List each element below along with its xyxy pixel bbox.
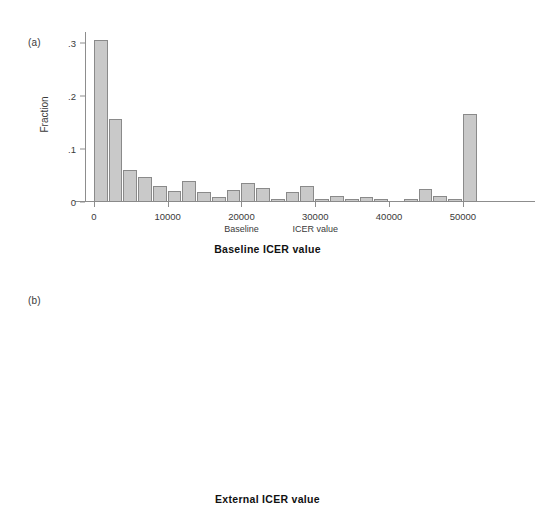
histogram-bar xyxy=(94,40,108,202)
panel-b-caption: External ICER value xyxy=(0,493,535,505)
histogram-bar xyxy=(271,199,285,202)
panel-a: (a) Fraction 0.1.2.301000020000300004000… xyxy=(0,0,535,268)
histogram-bar xyxy=(404,199,418,202)
histogram-bar xyxy=(123,170,137,202)
histogram-bar xyxy=(197,192,211,202)
panel-b: (b) Fraction 0.1.2.301000020000300004000… xyxy=(0,268,535,530)
y-tick-label: .2 xyxy=(39,90,85,101)
histogram-bar xyxy=(419,189,433,202)
y-tick-label: .3 xyxy=(39,37,85,48)
histogram-bar xyxy=(153,186,167,202)
x-axis-annotation: ICER value xyxy=(292,224,338,234)
y-axis-line-a xyxy=(85,32,86,202)
y-tick-mark xyxy=(80,202,85,203)
panel-b-letter: (b) xyxy=(28,295,41,306)
histogram-bar xyxy=(315,199,329,202)
x-tick-label: 30000 xyxy=(302,211,328,222)
histogram-bar xyxy=(360,197,374,202)
histogram-bar xyxy=(345,199,359,202)
y-tick-label: 0 xyxy=(39,197,85,208)
histogram-bar xyxy=(256,188,270,202)
x-tick-mark xyxy=(94,202,95,207)
y-tick-mark xyxy=(80,148,85,149)
histogram-bar xyxy=(374,199,388,202)
x-tick-mark xyxy=(463,202,464,207)
histogram-bar xyxy=(138,177,152,203)
histogram-bar xyxy=(286,192,300,202)
histogram-bar xyxy=(182,181,196,202)
histogram-bar xyxy=(241,183,255,202)
x-tick-label: 40000 xyxy=(376,211,402,222)
x-axis-annotation: Baseline xyxy=(224,224,259,234)
x-tick-label: 20000 xyxy=(228,211,254,222)
histogram-bar xyxy=(109,119,123,202)
histogram-bar xyxy=(227,190,241,202)
panel-a-caption: Baseline ICER value xyxy=(0,243,535,255)
x-tick-mark xyxy=(315,202,316,207)
y-tick-mark xyxy=(80,95,85,96)
x-tick-label: 10000 xyxy=(154,211,180,222)
histogram-bar xyxy=(168,191,182,202)
histogram-bar xyxy=(212,197,226,202)
histogram-bar xyxy=(448,199,462,202)
plot-area-a: Fraction 0.1.2.3010000200003000040000500… xyxy=(85,32,485,202)
x-tick-label: 0 xyxy=(91,211,96,222)
x-tick-mark xyxy=(168,202,169,207)
y-tick-label: .1 xyxy=(39,143,85,154)
histogram-bar xyxy=(330,196,344,202)
y-tick-mark xyxy=(80,42,85,43)
histogram-bar xyxy=(463,114,477,202)
x-tick-label: 50000 xyxy=(450,211,476,222)
x-tick-mark xyxy=(389,202,390,207)
histogram-bar xyxy=(300,186,314,202)
histogram-bar xyxy=(433,196,447,202)
x-tick-mark xyxy=(241,202,242,207)
